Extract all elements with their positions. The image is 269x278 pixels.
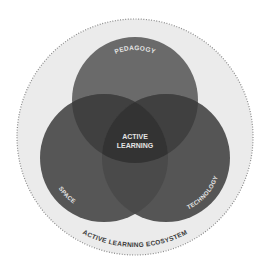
- active-learning-ecosystem-diagram: PEDAGOGY SPACE TECHNOLOGY ACTIVE LEARNIN…: [0, 0, 269, 278]
- active-learning-label-line1: ACTIVE: [122, 133, 148, 140]
- active-learning-label-line2: LEARNING: [117, 142, 154, 149]
